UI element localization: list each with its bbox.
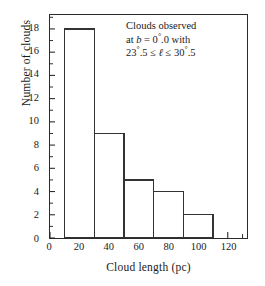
x-axis-tick-label: 60: [134, 241, 145, 252]
x-axis-tick-label: 120: [221, 241, 237, 252]
x-axis-tick-label: 20: [74, 241, 85, 252]
annotation-l3-c: ≤ 30: [163, 47, 185, 58]
y-axis-tick-labels: 024681012141618: [0, 14, 45, 239]
y-axis-tick-label: 4: [34, 187, 45, 198]
annotation-l2-suffix: .0 with: [161, 34, 190, 45]
x-axis-tick-label: 0: [46, 241, 51, 252]
histogram-bar: [94, 133, 124, 238]
x-axis-title: Cloud length (pc): [49, 261, 248, 273]
y-axis-tick-label: 2: [34, 210, 45, 221]
y-axis-tick-label: 18: [29, 23, 46, 34]
histogram-bar: [154, 192, 184, 238]
annotation-l3-b: .5 ≤: [140, 47, 159, 58]
histogram-bar: [124, 180, 154, 238]
y-axis-tick-label: 6: [34, 163, 45, 174]
y-axis-tick-label: 16: [29, 46, 46, 57]
annotation-line-3: 23°.5 ≤ ℓ ≤ 30°.5: [126, 46, 238, 60]
annotation-line-1: Clouds observed: [126, 19, 238, 33]
annotation-l3-a: 23: [126, 47, 137, 58]
y-axis-tick-label: 0: [34, 234, 45, 245]
histogram-bar: [183, 215, 213, 238]
x-axis-tick-label: 40: [104, 241, 115, 252]
annotation-l2-mid: = 0: [141, 34, 157, 45]
y-axis-tick-label: 12: [29, 93, 46, 104]
annotation-l2-prefix: at: [126, 34, 136, 45]
annotation-line-2: at b = 0°.0 with: [126, 33, 238, 47]
y-axis-tick-label: 10: [29, 116, 46, 127]
y-axis-tick-label: 14: [29, 69, 46, 80]
x-axis-tick-label: 100: [191, 241, 207, 252]
annotation-l3-d: .5: [188, 47, 196, 58]
x-axis-tick-labels: 020406080100120: [49, 241, 248, 257]
histogram-bar: [65, 29, 95, 238]
y-axis-tick-label: 8: [34, 140, 45, 151]
histogram-figure: Number of clouds 024681012141618 Clouds …: [0, 0, 265, 286]
x-axis-tick-label: 80: [163, 241, 174, 252]
annotation-text: Clouds observed at b = 0°.0 with 23°.5 ≤…: [126, 19, 238, 60]
